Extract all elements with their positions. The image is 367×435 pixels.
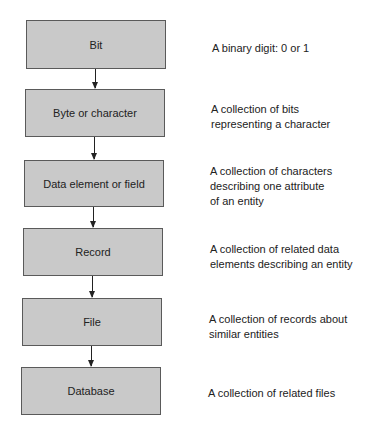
description-byte: A collection of bits representing a char… — [211, 102, 330, 132]
node-data-element-or-field: Data element or field — [24, 160, 164, 207]
node-label: Data element or field — [43, 178, 145, 190]
node-file: File — [22, 298, 162, 346]
description-record: A collection of related data elements de… — [210, 242, 352, 272]
node-bit: Bit — [26, 20, 166, 69]
node-label: File — [83, 316, 101, 328]
node-record: Record — [23, 228, 163, 276]
node-label: Record — [75, 246, 110, 258]
arrow-bit-to-byte — [95, 69, 96, 88]
node-byte-or-character: Byte or character — [25, 89, 165, 137]
node-label: Byte or character — [53, 107, 137, 119]
description-bit: A binary digit: 0 or 1 — [212, 41, 309, 56]
arrow-field-to-record — [93, 207, 94, 227]
description-database: A collection of related files — [208, 386, 335, 401]
node-label: Database — [67, 385, 114, 397]
arrow-byte-to-field — [94, 137, 95, 159]
arrow-record-to-file — [92, 276, 93, 297]
description-data-element: A collection of characters describing on… — [210, 164, 332, 209]
node-label: Bit — [90, 39, 103, 51]
node-database: Database — [21, 367, 161, 415]
description-file: A collection of records about similar en… — [209, 312, 347, 342]
arrow-file-to-database — [91, 346, 92, 366]
